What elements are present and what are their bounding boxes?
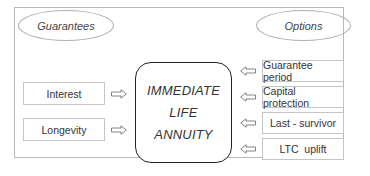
option-last-survivor-box: Last - survivor	[262, 112, 344, 134]
option-ltc-uplift-box: LTC uplift	[262, 138, 344, 160]
option-capital-protection-box: Capital protection	[262, 86, 344, 108]
guarantee-interest-box: Interest	[23, 82, 105, 105]
option-guarantee-period-box: Guarantee period	[262, 60, 344, 82]
center-line-1: IMMEDIATE	[147, 80, 220, 102]
options-header: Options	[256, 10, 351, 41]
arrow-left-outline-icon	[240, 118, 256, 128]
guarantees-header: Guarantees	[18, 10, 114, 41]
immediate-life-annuity-box: IMMEDIATE LIFE ANNUITY	[135, 62, 232, 163]
arrow-left-outline-icon	[240, 66, 256, 76]
arrow-left-outline-icon	[240, 92, 256, 102]
arrow-left-outline-icon	[240, 144, 256, 154]
guarantee-longevity-box: Longevity	[23, 118, 105, 141]
arrow-right-outline-icon	[111, 125, 127, 135]
center-line-2: LIFE	[169, 102, 197, 124]
center-line-3: ANNUITY	[154, 124, 212, 146]
arrow-right-outline-icon	[111, 89, 127, 99]
